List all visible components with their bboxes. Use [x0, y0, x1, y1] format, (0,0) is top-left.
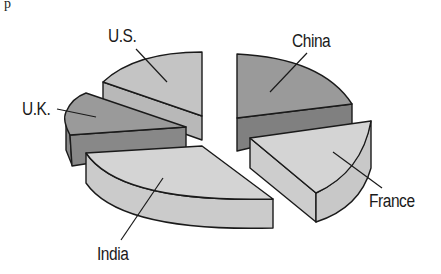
slice-india[interactable] — [86, 146, 273, 228]
exploded-3d-pie-chart — [0, 0, 441, 274]
label-china: China — [292, 32, 330, 50]
label-us: U.S. — [108, 27, 136, 45]
label-uk: U.K. — [22, 100, 50, 118]
label-india: India — [97, 245, 128, 263]
label-france: France — [369, 192, 415, 210]
